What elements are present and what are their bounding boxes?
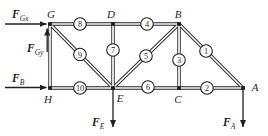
member-badge-2: 2 bbox=[201, 82, 214, 95]
force-label-FGx: FGx bbox=[11, 8, 29, 23]
badge-number-3: 3 bbox=[177, 56, 181, 65]
member-badge-10: 10 bbox=[74, 82, 87, 95]
joint-label-B: B bbox=[175, 8, 182, 20]
diagram-canvas: 84739511062GDBHECAFGxFGyFBFEFA bbox=[0, 0, 268, 136]
force-label-FE: FE bbox=[91, 116, 105, 131]
joint-label-E: E bbox=[116, 92, 124, 104]
member-badge-7: 7 bbox=[107, 44, 120, 57]
badge-number-9: 9 bbox=[78, 51, 82, 60]
badge-number-2: 2 bbox=[205, 84, 209, 93]
force-label-FB: FB bbox=[11, 72, 25, 87]
member-badge-9: 9 bbox=[74, 48, 87, 61]
joint-E bbox=[111, 86, 115, 90]
force-label-FGy: FGy bbox=[26, 42, 44, 57]
joint-G bbox=[48, 22, 52, 26]
badge-number-5: 5 bbox=[144, 52, 148, 61]
badge-number-1: 1 bbox=[204, 47, 208, 56]
member-badge-4: 4 bbox=[141, 18, 154, 31]
member-badge-6: 6 bbox=[142, 81, 155, 94]
joint-H bbox=[48, 86, 52, 90]
member-core-BA bbox=[179, 24, 243, 88]
badge-number-8: 8 bbox=[78, 20, 82, 29]
joint-label-G: G bbox=[47, 8, 55, 20]
force-label-FA: FA bbox=[222, 116, 236, 131]
member-badge-8: 8 bbox=[74, 18, 87, 31]
joint-label-D: D bbox=[106, 8, 115, 20]
member-badge-5: 5 bbox=[140, 50, 153, 63]
truss-diagram: 84739511062GDBHECAFGxFGyFBFEFA bbox=[0, 0, 268, 136]
badge-number-10: 10 bbox=[76, 84, 84, 93]
member-badge-3: 3 bbox=[173, 54, 186, 67]
joint-label-H: H bbox=[43, 93, 53, 105]
joint-B bbox=[177, 22, 181, 26]
badge-number-4: 4 bbox=[145, 20, 149, 29]
badge-number-6: 6 bbox=[146, 83, 150, 92]
joint-D bbox=[111, 22, 115, 26]
joint-A bbox=[241, 86, 245, 90]
joint-C bbox=[177, 86, 181, 90]
member-badge-1: 1 bbox=[200, 45, 213, 58]
joint-label-A: A bbox=[251, 81, 259, 93]
joint-label-C: C bbox=[174, 93, 182, 105]
badge-number-7: 7 bbox=[111, 46, 115, 55]
